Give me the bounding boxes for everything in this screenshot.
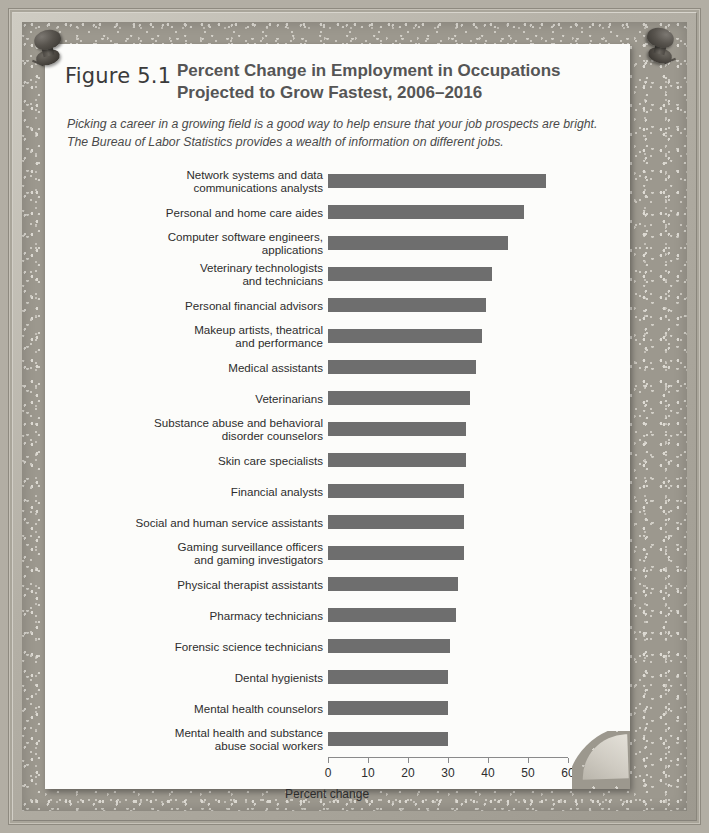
figure-title: Percent Change in Employment in Occupati… — [177, 60, 597, 104]
figure-number: Figure 5.1 — [65, 64, 171, 88]
pushpin-icon-right — [636, 24, 682, 70]
bar-category-label: Veterinarians — [45, 392, 323, 406]
bar — [328, 515, 464, 529]
bar-row: Personal financial advisors — [45, 290, 630, 321]
bar-category-label: Substance abuse and behavioraldisorder c… — [45, 416, 323, 443]
x-tick — [528, 758, 529, 763]
bar-row: Veterinarians — [45, 383, 630, 414]
bar-row: Medical assistants — [45, 352, 630, 383]
x-tick — [488, 758, 489, 763]
bar — [328, 453, 466, 467]
bar-category-label: Personal and home care aides — [45, 206, 323, 220]
pushpin-icon-left — [26, 26, 72, 72]
x-tick-label: 50 — [521, 766, 534, 780]
bar-row: Pharmacy technicians — [45, 600, 630, 631]
bar-row: Personal and home care aides — [45, 197, 630, 228]
x-tick — [328, 758, 329, 763]
x-tick — [368, 758, 369, 763]
bar-chart: Network systems and datacommunications a… — [45, 166, 630, 776]
x-tick-label: 0 — [325, 766, 332, 780]
x-tick — [448, 758, 449, 763]
bar-row: Network systems and datacommunications a… — [45, 166, 630, 197]
bar — [328, 484, 464, 498]
bar — [328, 267, 492, 281]
bar-category-label: Makeup artists, theatricaland performanc… — [45, 323, 323, 350]
bar-row: Financial analysts — [45, 476, 630, 507]
bar-row: Social and human service assistants — [45, 507, 630, 538]
bar-category-label: Forensic science technicians — [45, 640, 323, 654]
bar-category-label: Gaming surveillance officersand gaming i… — [45, 540, 323, 567]
bar — [328, 577, 458, 591]
bar-category-label: Dental hygienists — [45, 671, 323, 685]
bar-row: Substance abuse and behavioraldisorder c… — [45, 414, 630, 445]
bar — [328, 236, 508, 250]
bar-category-label: Skin care specialists — [45, 454, 323, 468]
x-tick — [408, 758, 409, 763]
bar-category-label: Mental health counselors — [45, 702, 323, 716]
bar-row: Mental health counselors — [45, 693, 630, 724]
figure-caption: Picking a career in a growing field is a… — [67, 116, 614, 152]
bar-row: Mental health and substanceabuse social … — [45, 724, 630, 755]
bar-row: Gaming surveillance officersand gaming i… — [45, 538, 630, 569]
x-tick — [568, 758, 569, 763]
bar-category-label: Mental health and substanceabuse social … — [45, 726, 323, 753]
bar — [328, 608, 456, 622]
bar — [328, 391, 470, 405]
bar — [328, 298, 486, 312]
bar-row: Physical therapist assistants — [45, 569, 630, 600]
page-curl-icon — [572, 731, 630, 789]
bar — [328, 546, 464, 560]
bar-category-label: Social and human service assistants — [45, 516, 323, 530]
bar-row: Dental hygienists — [45, 662, 630, 693]
bar-category-label: Pharmacy technicians — [45, 609, 323, 623]
bar-category-label: Financial analysts — [45, 485, 323, 499]
bar — [328, 670, 448, 684]
x-tick-label: 40 — [481, 766, 494, 780]
bar-category-label: Network systems and datacommunications a… — [45, 168, 323, 195]
x-axis-label: Percent change — [285, 787, 369, 801]
bar — [328, 732, 448, 746]
bar-category-label: Computer software engineers,applications — [45, 230, 323, 257]
bar-category-label: Veterinary technologistsand technicians — [45, 261, 323, 288]
x-tick-label: 20 — [401, 766, 414, 780]
x-tick-label: 30 — [441, 766, 454, 780]
bar-row: Computer software engineers,applications — [45, 228, 630, 259]
bulletin-board: Figure 5.1 Percent Change in Employment … — [0, 0, 709, 833]
bar-row: Veterinary technologistsand technicians — [45, 259, 630, 290]
bar-row: Skin care specialists — [45, 445, 630, 476]
bar — [328, 422, 466, 436]
bar — [328, 639, 450, 653]
bar — [328, 205, 524, 219]
bar-category-label: Medical assistants — [45, 361, 323, 375]
bar-row: Forensic science technicians — [45, 631, 630, 662]
bar-row: Makeup artists, theatricaland performanc… — [45, 321, 630, 352]
bar-category-label: Physical therapist assistants — [45, 578, 323, 592]
bar — [328, 174, 546, 188]
bar — [328, 360, 476, 374]
x-tick-label: 10 — [361, 766, 374, 780]
bar — [328, 701, 448, 715]
bar — [328, 329, 482, 343]
bar-category-label: Personal financial advisors — [45, 299, 323, 313]
figure-sheet: Figure 5.1 Percent Change in Employment … — [45, 44, 630, 789]
